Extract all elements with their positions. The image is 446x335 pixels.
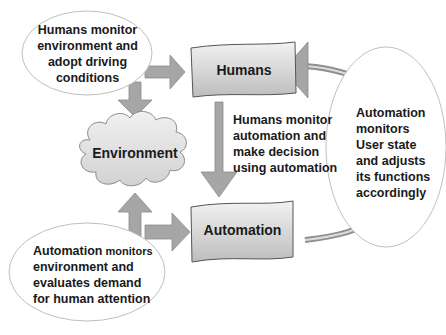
- callout-line: environment and: [33, 259, 163, 275]
- callout-line: its functions: [356, 169, 446, 185]
- callout-line: Automation monitors: [33, 243, 163, 259]
- callout-right-text: Automation monitors User state and adjus…: [356, 105, 446, 201]
- callout-rest: monitors: [102, 245, 152, 257]
- humans-label: Humans: [192, 62, 296, 78]
- middle-description: Humans monitor automation and make decis…: [233, 112, 363, 176]
- callout-top-left-text: Humans monitor environment and adopt dri…: [30, 22, 145, 86]
- callout-line: adopt driving: [30, 54, 145, 70]
- middle-line: using automation: [233, 160, 363, 176]
- callout-bottom-left-text: Automation monitors environment and eval…: [33, 243, 163, 307]
- callout-line: monitors: [356, 121, 446, 137]
- arrow-humans-to-automation: [201, 102, 237, 197]
- environment-label: Environment: [80, 145, 190, 161]
- callout-line: environment and: [30, 38, 145, 54]
- callout-line: evaluates demand: [33, 275, 163, 291]
- callout-line: accordingly: [356, 185, 446, 201]
- callout-line: User state: [356, 137, 446, 153]
- callout-line: Automation: [356, 105, 446, 121]
- middle-line: Humans monitor: [233, 112, 363, 128]
- callout-line: Humans monitor: [30, 22, 145, 38]
- callout-line: for human attention: [33, 291, 163, 307]
- callout-bold-word: Automation: [33, 244, 102, 258]
- middle-line: automation and: [233, 128, 363, 144]
- callout-line: and adjusts: [356, 153, 446, 169]
- callout-line: conditions: [30, 70, 145, 86]
- middle-line: make decision: [233, 144, 363, 160]
- automation-label: Automation: [192, 222, 293, 238]
